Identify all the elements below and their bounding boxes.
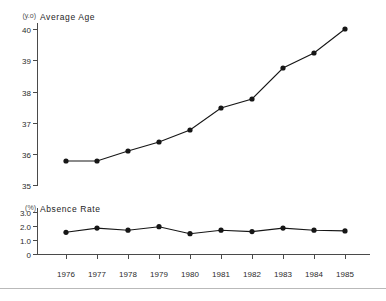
data-point-1984 [311,50,316,55]
y-tick-label-40: 40 [22,26,31,35]
x-tick-label-1976: 1976 [57,270,75,279]
x-ticks [66,255,345,260]
series-line-average-age [66,29,345,161]
data-point-1976 [63,230,68,235]
y-tick-label-0: 0 [27,251,32,260]
data-point-1981 [218,105,223,110]
panel-absence-rate: Absence Rate (%) 3.0 2.0 1.0 0 [20,204,370,279]
data-point-1977 [94,158,99,163]
series-markers-absence-rate [63,224,347,236]
x-tick-label-1979: 1979 [150,270,168,279]
data-point-1978 [125,148,130,153]
y-ticks-average-age: 40 39 38 37 36 35 [22,26,37,191]
y-ticks-absence-rate: 3.0 2.0 1.0 0 [20,209,38,260]
y-tick-label-35: 35 [22,182,31,191]
data-point-1979 [156,224,161,229]
x-tick-label-1980: 1980 [181,270,199,279]
y-tick-label-39: 39 [22,57,31,66]
data-point-1980 [187,231,192,236]
series-line-absence-rate [66,227,345,234]
data-point-1983 [280,65,285,70]
panel-average-age: Average Age (y.o) 40 39 38 37 36 35 [22,12,348,191]
x-tick-label-1985: 1985 [336,270,354,279]
y-tick-label-36: 36 [22,151,31,160]
y-tick-label-3-0: 3.0 [20,209,32,218]
panel-title-average-age: Average Age [40,12,95,22]
data-point-1976 [63,158,68,163]
data-point-1983 [280,226,285,231]
data-point-1984 [311,228,316,233]
data-point-1982 [249,96,254,101]
x-tick-label-1981: 1981 [212,270,230,279]
y-tick-label-37: 37 [22,120,31,129]
y-tick-label-38: 38 [22,89,31,98]
panel-title-absence-rate: Absence Rate [40,204,101,214]
figure-canvas: Average Age (y.o) 40 39 38 37 36 35 [0,0,386,301]
x-tick-label-1984: 1984 [305,270,323,279]
data-point-1977 [94,226,99,231]
chart-svg: Average Age (y.o) 40 39 38 37 36 35 [0,0,386,301]
data-point-1981 [218,228,223,233]
y-tick-label-1-0: 1.0 [20,237,32,246]
x-tick-label-1977: 1977 [88,270,106,279]
data-point-1979 [156,139,161,144]
x-tick-labels: 1976 1977 1978 1979 1980 1981 1982 1983 … [57,270,354,279]
x-tick-label-1983: 1983 [274,270,292,279]
page-divider [0,288,386,289]
data-point-1985 [342,26,347,31]
unit-label-average-age: (y.o) [23,12,36,20]
data-point-1978 [125,228,130,233]
y-tick-label-2-0: 2.0 [20,223,32,232]
x-tick-label-1978: 1978 [119,270,137,279]
series-markers-average-age [63,26,347,163]
data-point-1980 [187,127,192,132]
data-point-1985 [342,228,347,233]
x-tick-label-1982: 1982 [243,270,261,279]
data-point-1982 [249,229,254,234]
